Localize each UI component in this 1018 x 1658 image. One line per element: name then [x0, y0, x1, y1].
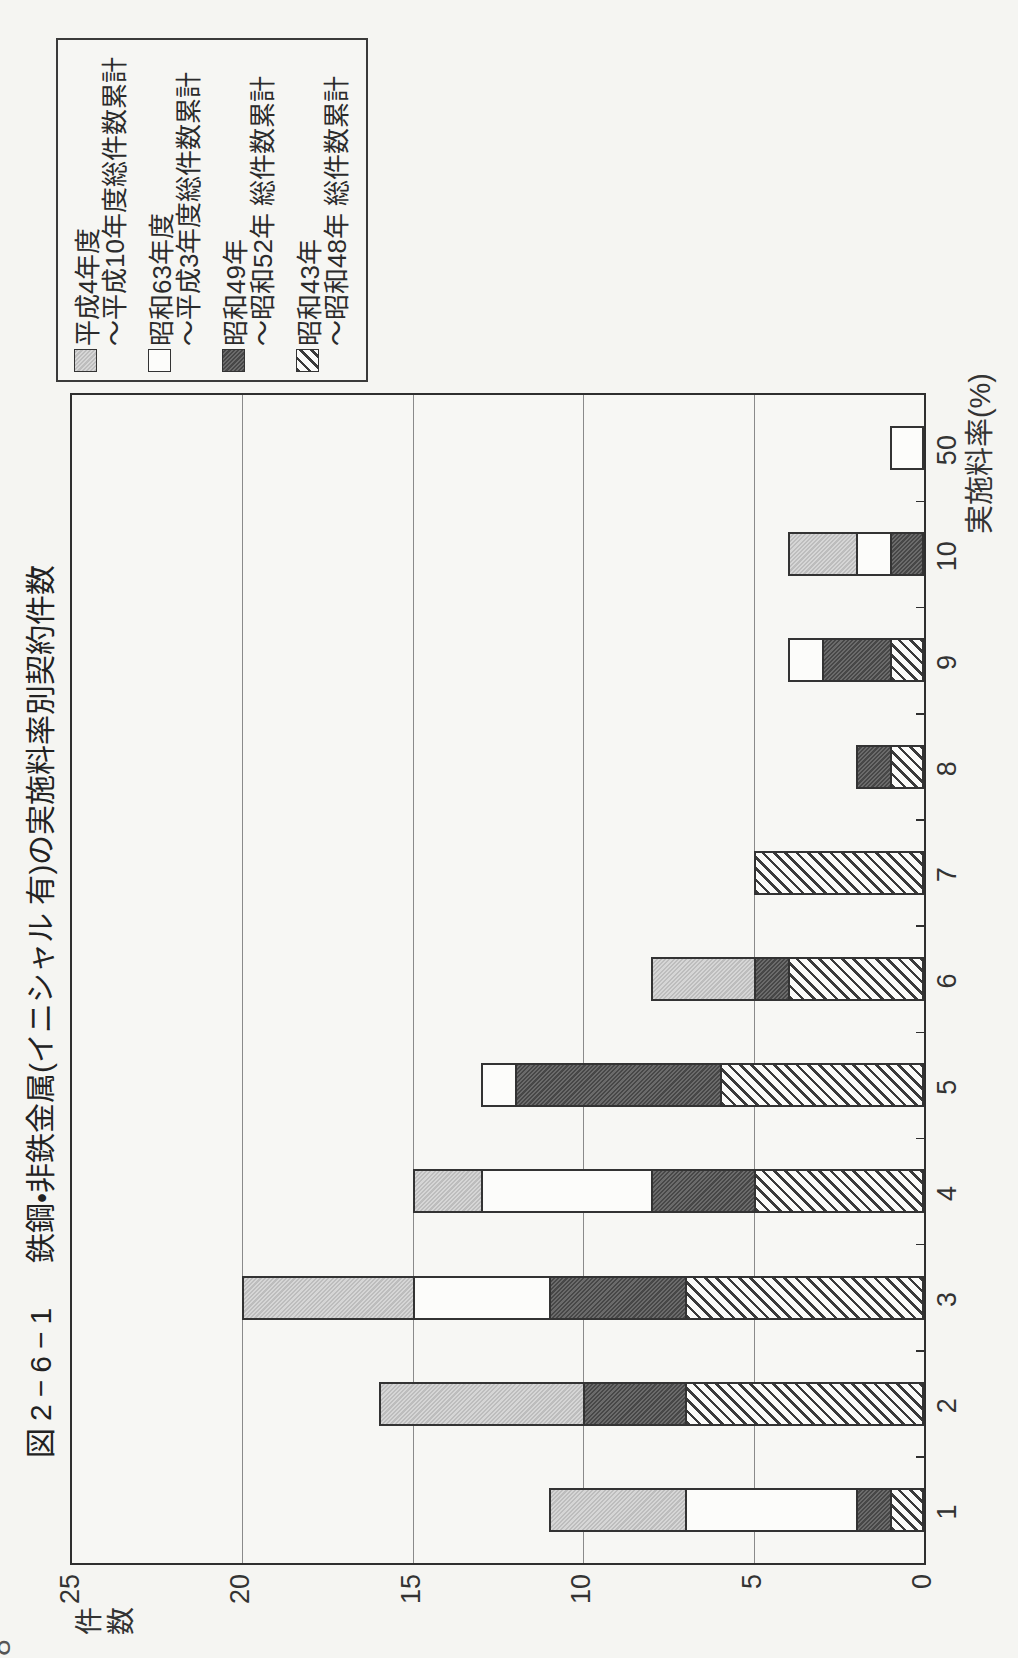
legend-label-line2: 〜昭和48年 総件数累計 — [322, 46, 353, 372]
figure-number: 図2−6−1 — [24, 1301, 57, 1458]
bar-segment-white-cat4 — [481, 1169, 653, 1213]
legend-swatch-white — [148, 349, 171, 372]
bar-segment-light-gray-cat3 — [242, 1276, 414, 1320]
legend-entry: 昭和43年〜昭和48年 総件数累計 — [292, 46, 353, 372]
bar-segment-diagonal-hatch-cat7 — [754, 851, 924, 895]
bar-segment-light-gray-cat10 — [788, 532, 858, 576]
bar-segment-white-cat10 — [856, 532, 892, 576]
category-boundary-tick — [916, 819, 924, 821]
y-tick-label-25: 25 — [55, 1574, 86, 1636]
bar-segment-white-cat3 — [413, 1276, 551, 1320]
category-label-6: 6 — [932, 928, 963, 1034]
bar-segment-diagonal-hatch-cat4 — [754, 1169, 924, 1213]
bar-segment-dark-gray-cat8 — [856, 745, 892, 789]
legend-entry-row1: 平成4年度 — [70, 46, 100, 372]
bar-segment-diagonal-hatch-cat9 — [890, 638, 924, 682]
legend-entry: 平成4年度〜平成10年度総件数累計 — [70, 46, 131, 372]
bar-segment-dark-gray-cat9 — [822, 638, 892, 682]
bar-segment-white-cat1 — [685, 1488, 857, 1532]
bar-segment-light-gray-cat4 — [413, 1169, 483, 1213]
y-tick-label-15: 15 — [396, 1574, 427, 1636]
legend-label-line2: 〜昭和52年 総件数累計 — [248, 46, 279, 372]
category-boundary-tick — [916, 501, 924, 503]
value-gridline-20 — [242, 395, 243, 1563]
bar-segment-diagonal-hatch-cat1 — [890, 1488, 924, 1532]
category-boundary-tick — [916, 1138, 924, 1140]
bar-segment-diagonal-hatch-cat5 — [720, 1063, 924, 1107]
bar-segment-dark-gray-cat1 — [856, 1488, 892, 1532]
rotated-landscape-canvas: 8 図2−6−1鉄鋼・非鉄金属(イニシャル 有)の実施料率別契約件数 件数 05… — [0, 0, 1018, 1658]
category-label-5: 5 — [932, 1034, 963, 1140]
category-boundary-tick — [916, 1244, 924, 1246]
legend-label-line1: 昭和43年 — [289, 239, 326, 346]
figure-title-text: 鉄鋼・非鉄金属(イニシャル 有)の実施料率別契約件数 — [24, 565, 57, 1263]
bar-segment-white-cat50 — [890, 426, 924, 470]
bar-segment-dark-gray-cat6 — [754, 957, 790, 1001]
category-boundary-tick — [916, 1032, 924, 1034]
bar-segment-diagonal-hatch-cat2 — [685, 1382, 924, 1426]
bar-segment-white-cat5 — [481, 1063, 517, 1107]
bar-segment-dark-gray-cat2 — [583, 1382, 687, 1426]
bar-segment-dark-gray-cat5 — [515, 1063, 721, 1107]
bar-segment-light-gray-cat6 — [651, 957, 755, 1001]
bar-segment-diagonal-hatch-cat6 — [788, 957, 924, 1001]
bar-segment-light-gray-cat1 — [549, 1488, 687, 1532]
figure-title: 図2−6−1鉄鋼・非鉄金属(イニシャル 有)の実施料率別契約件数 — [16, 565, 60, 1458]
category-boundary-tick — [916, 1456, 924, 1458]
legend-label-line1: 平成4年度 — [67, 228, 104, 346]
y-tick-label-10: 10 — [566, 1574, 597, 1636]
legend-entry: 昭和63年度〜平成3年度総件数累計 — [144, 46, 205, 372]
legend-entry: 昭和49年〜昭和52年 総件数累計 — [218, 46, 279, 372]
plot-frame — [70, 393, 926, 1565]
y-tick-label-0: 0 — [907, 1574, 938, 1636]
legend-label-line2: 〜平成10年度総件数累計 — [100, 46, 131, 372]
category-label-4: 4 — [932, 1140, 963, 1246]
x-axis-title: 実施料率(%) — [956, 373, 998, 658]
legend-label-line1: 昭和63年度 — [141, 213, 178, 346]
bar-segment-dark-gray-cat3 — [549, 1276, 687, 1320]
bar-segment-dark-gray-cat4 — [651, 1169, 755, 1213]
y-tick-label-5: 5 — [737, 1574, 768, 1636]
category-label-7: 7 — [932, 822, 963, 928]
category-boundary-tick — [916, 607, 924, 609]
legend-label-line2: 〜平成3年度総件数累計 — [174, 46, 205, 372]
category-label-1: 1 — [932, 1459, 963, 1565]
bar-segment-diagonal-hatch-cat3 — [685, 1276, 924, 1320]
legend-swatch-light-gray — [74, 349, 97, 372]
category-label-2: 2 — [932, 1353, 963, 1459]
legend-swatch-dark-gray — [222, 349, 245, 372]
page-number-fragment: 8 — [0, 1639, 17, 1656]
legend-entry-row1: 昭和43年 — [292, 46, 322, 372]
category-label-8: 8 — [932, 716, 963, 822]
legend-label-line1: 昭和49年 — [215, 239, 252, 346]
bar-segment-light-gray-cat2 — [379, 1382, 585, 1426]
category-boundary-tick — [916, 925, 924, 927]
category-boundary-tick — [916, 713, 924, 715]
legend-entry-row1: 昭和49年 — [218, 46, 248, 372]
bar-segment-diagonal-hatch-cat8 — [890, 745, 924, 789]
bar-segment-white-cat9 — [788, 638, 824, 682]
legend-swatch-diagonal-hatch — [296, 349, 319, 372]
legend-entry-row1: 昭和63年度 — [144, 46, 174, 372]
legend-box: 平成4年度〜平成10年度総件数累計昭和63年度〜平成3年度総件数累計昭和49年〜… — [56, 38, 368, 382]
category-label-3: 3 — [932, 1246, 963, 1352]
bar-segment-dark-gray-cat10 — [890, 532, 924, 576]
y-tick-label-20: 20 — [225, 1574, 256, 1636]
category-boundary-tick — [916, 1350, 924, 1352]
